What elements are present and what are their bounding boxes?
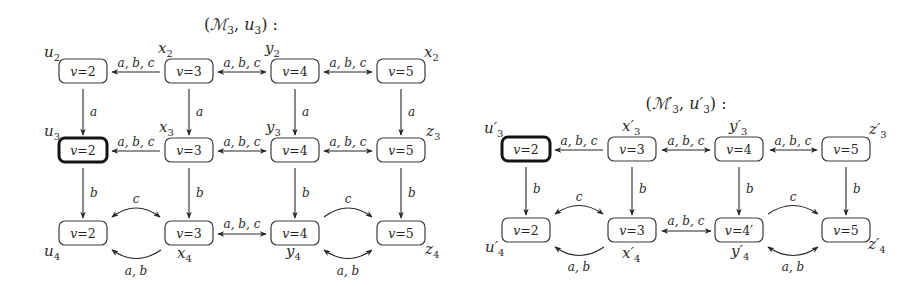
edge-label: a, b, c [775,134,812,148]
state-valuation: v=3 [619,142,645,157]
state-name: x3 [159,118,174,138]
state-x2: v=3 x2 [158,39,213,83]
edge-x4p-u4p-ab [555,247,604,256]
edge-label: b [196,186,204,200]
edge-label: a [408,105,415,119]
state-z3-prime: v=5 z′3 [822,120,887,161]
state-name: x2 [424,43,439,63]
state-name: u4 [44,242,60,262]
state-y3-prime: v=4 y′3 [715,117,763,161]
edge-label: a, b [782,260,804,274]
edge-u4p-x4p-c [555,206,603,215]
state-valuation: v=5 [388,64,414,79]
state-y3: v=4 y3 [265,118,319,162]
kripke-models-figure: (ℳ3, u3) : a, b, c a, b, c a, b, c a a a… [0,0,924,286]
edge-label: c [345,192,352,206]
edge-label: a [302,105,309,119]
edge-label: a, b, c [118,135,155,149]
edge-label: a [90,105,97,119]
state-u4: v=2 u4 [44,221,107,262]
state-name: z′3 [868,120,887,140]
state-z4-prime: v=5 z′4 [822,218,886,255]
state-z3: v=5 z3 [377,122,440,162]
state-valuation: v=5 [833,142,859,157]
edge-label: b [302,186,310,200]
right-model-title: (ℳ′3, u′3) : [645,94,726,115]
state-name: y′3 [728,117,747,137]
state-u2: v=2 u2 [44,43,107,83]
state-valuation: v=2 [513,223,539,238]
state-name: x2 [158,39,173,59]
state-valuation: v=4′ [725,223,753,238]
right-edges: a, b, c a, b, c a, b, c b b b b c a, b a… [526,134,861,274]
edge-y4-z4-c [324,208,372,217]
edge-label: a, b [125,264,147,278]
edge-label: a, b, c [668,214,705,228]
edge-label: a, b, c [561,134,598,148]
state-z4: v=5 z4 [377,221,439,260]
edge-label: a, b, c [118,56,155,70]
edge-y4-z4-ab [324,250,372,259]
state-name: u2 [44,43,60,63]
edge-label: c [133,192,140,206]
state-valuation: v=5 [388,226,414,241]
edge-label: a, b, c [224,56,261,70]
edge-label: b [639,182,647,196]
state-name: x′4 [622,244,640,264]
state-u3-prime: v=2 u′3 [484,119,550,161]
state-valuation: v=3 [619,223,645,238]
state-valuation: v=2 [70,64,96,79]
right-model-diagram: (ℳ′3, u′3) : a, b, c a, b, c a, b, c b b… [484,94,887,274]
edge-label: a [196,105,203,119]
left-model-title: (ℳ3, u3) : [204,15,278,36]
state-valuation: v=4 [282,226,308,241]
state-valuation: v=5 [833,223,859,238]
edge-label: b [746,182,754,196]
edge-label: b [853,182,861,196]
state-valuation: v=3 [176,143,202,158]
state-name: x′3 [622,117,640,137]
edge-label: a, b [337,264,359,278]
state-valuation: v=4 [282,64,308,79]
edge-label: a, b, c [224,217,261,231]
state-name: u′3 [484,119,503,139]
left-edges: a, b, c a, b, c a, b, c a a a a a, b, c … [83,56,416,278]
edge-y4p-z4p-ab [768,247,818,256]
edge-x4-u4-ab [112,250,161,259]
edge-label: c [576,190,583,204]
edge-label: c [790,190,797,204]
state-valuation: v=5 [388,143,414,158]
edge-label: b [533,182,541,196]
state-valuation: v=3 [176,226,202,241]
edge-label: b [90,186,98,200]
state-u3: v=2 u3 [44,122,107,162]
state-valuation: v=4 [726,142,752,157]
state-name: y′4 [730,242,749,262]
state-x3-prime: v=3 x′3 [608,117,656,161]
state-z2: v=5 x2 [377,43,439,83]
edge-label: a, b, c [668,134,705,148]
state-name: z4 [424,240,439,260]
edge-y4p-z4p-c [768,206,818,215]
state-name: z′4 [867,235,886,255]
state-name: y2 [264,39,280,59]
left-model-diagram: (ℳ3, u3) : a, b, c a, b, c a, b, c a a a… [44,15,440,278]
state-x3: v=3 x3 [159,118,213,162]
state-name: z3 [425,122,440,142]
state-valuation: v=2 [513,142,539,157]
edge-label: b [408,186,416,200]
state-x4-prime: v=3 x′4 [608,218,656,264]
state-name: u3 [44,122,60,142]
edge-u4-x4-c [112,208,160,217]
state-valuation: v=2 [70,226,96,241]
edge-label: a, b, c [330,135,367,149]
state-name: y3 [265,118,281,138]
state-name: x4 [177,244,192,264]
state-valuation: v=2 [70,143,96,158]
state-x4: v=3 x4 [165,221,213,264]
edge-label: a, b, c [224,135,261,149]
state-valuation: v=3 [176,64,202,79]
state-y4-prime: v=4′ y′4 [715,218,763,262]
edge-label: a, b, c [330,56,367,70]
state-valuation: v=4 [282,143,308,158]
